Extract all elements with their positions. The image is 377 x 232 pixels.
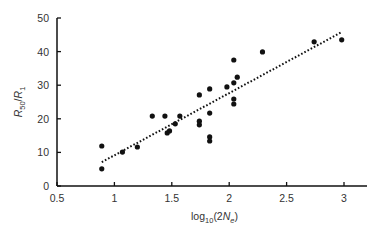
x-title-base: log <box>191 210 205 222</box>
data-point <box>231 96 236 101</box>
x-title-mid: (2 <box>213 210 222 222</box>
data-points <box>99 37 344 171</box>
data-point <box>197 122 202 127</box>
data-point <box>231 57 236 62</box>
data-point <box>231 101 236 106</box>
x-title-sub: 10 <box>205 216 213 225</box>
y-tick-label: 0 <box>43 180 49 192</box>
data-point <box>120 149 125 154</box>
x-tick-label: 2 <box>226 192 232 204</box>
axes: 0.511.522.53 01020304050 <box>37 12 367 204</box>
data-point <box>99 143 104 148</box>
data-point <box>231 80 236 85</box>
x-tick-label: 3 <box>341 192 347 204</box>
x-axis-title: log10(2Ne) <box>191 210 238 225</box>
x-tick-label: 0.5 <box>50 192 65 204</box>
data-point <box>260 49 265 54</box>
data-point <box>207 86 212 91</box>
trendline <box>102 32 342 162</box>
y-tick-label: 30 <box>37 79 49 91</box>
y-tick-label: 40 <box>37 46 49 58</box>
y-tick-label: 10 <box>37 146 49 158</box>
data-point <box>167 128 172 133</box>
data-point <box>224 84 229 89</box>
x-tick-label: 1.5 <box>164 192 179 204</box>
x-tick-label: 1 <box>111 192 117 204</box>
data-point <box>207 110 212 115</box>
data-point <box>207 138 212 143</box>
data-point <box>162 114 167 119</box>
data-point <box>339 37 344 42</box>
data-point <box>173 121 178 126</box>
y-axis-title: R50/R1 <box>12 87 27 118</box>
data-point <box>312 39 317 44</box>
x-title-end: ) <box>234 210 238 222</box>
data-point <box>135 144 140 149</box>
data-point <box>235 75 240 80</box>
scatter-chart: 0.511.522.53 01020304050 log10(2Ne) R50/… <box>0 0 377 232</box>
y-tick-label: 50 <box>37 12 49 24</box>
y-tick-label: 20 <box>37 113 49 125</box>
data-point <box>177 114 182 119</box>
data-point <box>99 166 104 171</box>
data-point <box>150 114 155 119</box>
y-title-sub1: 50 <box>18 101 27 109</box>
y-title-sub2: 1 <box>18 87 27 91</box>
data-point <box>197 92 202 97</box>
x-tick-label: 2.5 <box>279 192 294 204</box>
